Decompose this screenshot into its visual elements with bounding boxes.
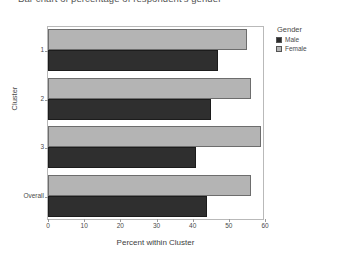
chart-root: Bar chart of percentage of respondent's …: [0, 0, 339, 255]
plot-area: 123Overall 0102030405060: [47, 26, 264, 220]
bars-container: [48, 27, 263, 219]
bar-female-2: [48, 78, 251, 99]
legend-label-female: Female: [285, 46, 307, 53]
bar-male-overall: [48, 196, 207, 217]
chart-title: Bar chart of percentage of respondent's …: [18, 0, 318, 4]
x-tick-label: 40: [189, 223, 196, 230]
x-tick-label: 50: [225, 223, 232, 230]
x-tick-label: 20: [117, 223, 124, 230]
x-tick-label: 0: [46, 223, 50, 230]
bar-female-3: [48, 126, 261, 147]
legend-title: Gender: [276, 25, 338, 34]
y-axis-title: Cluster: [10, 59, 19, 139]
legend-label-male: Male: [285, 37, 299, 44]
x-tick-label: 10: [81, 223, 88, 230]
legend: Gender Male Female: [276, 25, 338, 55]
y-tick-mark: [45, 148, 48, 149]
x-axis-title: Percent within Cluster: [47, 238, 264, 247]
bar-male-3: [48, 147, 196, 168]
y-tick-label-overall: Overall: [2, 193, 48, 200]
bar-female-1: [48, 29, 247, 50]
y-tick-label-1: 1: [2, 47, 48, 54]
male-swatch-icon: [276, 37, 282, 43]
y-tick-mark: [45, 100, 48, 101]
legend-item-male: Male: [276, 37, 338, 44]
y-tick-mark: [45, 51, 48, 52]
x-tick-label: 60: [261, 223, 268, 230]
bar-male-1: [48, 50, 218, 71]
x-tick-label: 30: [153, 223, 160, 230]
y-tick-label-3: 3: [2, 144, 48, 151]
legend-item-female: Female: [276, 46, 338, 53]
female-swatch-icon: [276, 46, 282, 52]
y-tick-mark: [45, 197, 48, 198]
bar-female-overall: [48, 175, 251, 196]
bar-male-2: [48, 99, 211, 120]
